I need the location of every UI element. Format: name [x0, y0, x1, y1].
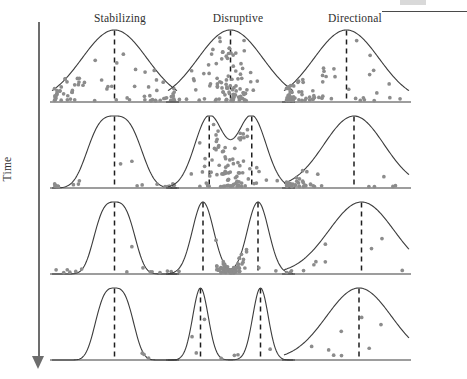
distribution-curve: [284, 202, 409, 270]
individual-dot: [375, 91, 379, 95]
individual-dot: [100, 78, 104, 82]
individual-dot: [214, 133, 218, 137]
individual-dot: [62, 92, 66, 96]
individual-dot: [54, 268, 58, 272]
plot-panel-disruptive-row3: [164, 196, 297, 282]
individual-dot: [297, 79, 301, 83]
individual-dot: [358, 99, 362, 103]
distribution-curve: [284, 288, 409, 355]
individual-dot: [211, 48, 215, 52]
individual-dot: [78, 179, 82, 183]
individual-dot: [140, 351, 144, 355]
individual-dot: [308, 98, 312, 102]
individual-dot: [147, 356, 151, 360]
individual-dot: [192, 79, 196, 83]
individual-dot: [130, 245, 134, 249]
individual-dot: [73, 83, 77, 87]
individual-dot: [178, 98, 182, 102]
individual-dot: [340, 354, 344, 358]
plot-panel-disruptive-row2: [164, 110, 297, 196]
individual-dot: [203, 317, 207, 321]
individual-dot: [77, 83, 81, 87]
individual-dot: [242, 159, 246, 163]
individual-dot: [368, 54, 372, 58]
individual-dot: [268, 347, 272, 351]
individual-dot: [388, 96, 392, 100]
individual-dot: [400, 269, 404, 273]
individual-dot: [223, 93, 227, 97]
individual-dot: [58, 89, 62, 93]
individual-dot: [185, 97, 189, 101]
individual-dot: [215, 137, 219, 141]
individual-dot: [303, 184, 307, 188]
individual-dot: [249, 80, 253, 84]
individual-dot: [300, 90, 304, 94]
individual-dot: [73, 98, 77, 102]
individual-dot: [237, 266, 241, 270]
individual-dot: [370, 247, 374, 251]
individual-dot: [125, 270, 129, 274]
individual-dot: [59, 98, 63, 102]
individual-dot: [54, 97, 58, 101]
individual-dot: [203, 165, 207, 169]
individual-dot: [143, 70, 147, 74]
individual-dot: [316, 172, 320, 176]
individual-dot: [219, 267, 223, 271]
individual-dot: [206, 184, 210, 188]
individual-dot: [203, 157, 207, 161]
individual-dot: [285, 271, 289, 275]
individual-dot: [218, 36, 222, 40]
individual-dot: [222, 149, 226, 153]
individual-dot: [255, 166, 259, 170]
individual-dot: [158, 98, 162, 102]
individual-dot: [130, 159, 134, 163]
individual-dot: [314, 260, 318, 264]
individual-dot: [239, 62, 243, 66]
individual-dot: [220, 86, 224, 90]
individual-dot: [286, 86, 290, 90]
individual-dot: [62, 271, 66, 275]
individual-dot: [301, 169, 305, 173]
individual-dot: [198, 185, 202, 189]
individual-dot: [228, 170, 232, 174]
plot-panel-stabilizing-row2: [48, 110, 181, 196]
distribution-curve: [168, 288, 293, 360]
individual-dot: [332, 353, 336, 357]
individual-dot: [302, 269, 306, 273]
individual-dot: [234, 69, 238, 73]
individual-dot: [224, 269, 228, 273]
individual-dot: [155, 78, 159, 82]
individual-dot: [252, 182, 256, 186]
individual-dot: [147, 85, 151, 89]
individual-dot: [372, 99, 376, 103]
individual-dot: [313, 96, 317, 100]
individual-dot: [245, 134, 249, 138]
plot-panel-disruptive-row1: [164, 24, 297, 110]
individual-dot: [363, 98, 367, 102]
cropped-label-box: [400, 0, 426, 5]
individual-dot: [304, 96, 308, 100]
individual-dot: [226, 86, 230, 90]
individual-dot: [285, 96, 289, 100]
individual-dot: [333, 75, 337, 79]
individual-dot: [239, 72, 243, 76]
down-arrow-icon: [32, 356, 44, 369]
individual-dot: [231, 184, 235, 188]
individual-dot: [189, 172, 193, 176]
individual-dot: [379, 323, 383, 327]
individual-dot: [225, 78, 229, 82]
individual-dot: [231, 88, 235, 92]
individual-dot: [72, 183, 76, 187]
individual-dot: [207, 63, 211, 67]
individual-dot: [367, 346, 371, 350]
individual-dot: [68, 270, 72, 274]
individual-dot: [238, 269, 242, 273]
individual-dot: [233, 147, 237, 151]
individual-dot: [232, 266, 236, 270]
individual-dot: [255, 79, 259, 83]
individual-dot: [215, 76, 219, 80]
individual-dot: [224, 99, 228, 103]
individual-dot: [222, 185, 226, 189]
individual-dot: [265, 178, 269, 182]
individual-dot: [246, 128, 250, 132]
